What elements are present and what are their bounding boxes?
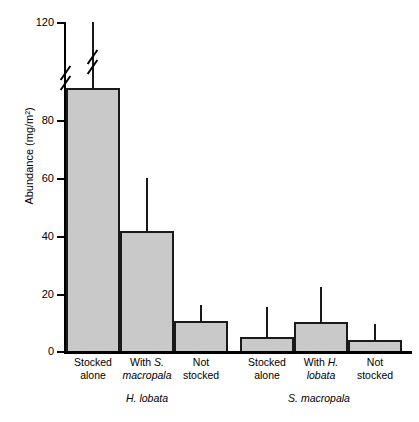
bar-3 xyxy=(174,321,228,354)
group-label-h-lobata: H. lobata xyxy=(94,392,200,404)
y-tick-120 xyxy=(57,22,65,24)
y-tick-label-40: 40 xyxy=(20,231,54,242)
error-bar-3 xyxy=(200,305,202,322)
y-tick-80 xyxy=(57,120,65,122)
error-bar-5 xyxy=(320,287,322,323)
x-label-3-line1: Not xyxy=(168,356,234,369)
bar-5 xyxy=(294,322,348,354)
x-label-5-line1-italic: H. xyxy=(328,356,339,368)
x-label-6-line1: Not xyxy=(342,356,408,369)
x-label-5-line1-text: With xyxy=(304,356,328,368)
bar-2 xyxy=(120,231,174,354)
error-bar-4 xyxy=(266,307,268,338)
y-tick-label-80: 80 xyxy=(20,115,54,126)
y-tick-label-120: 120 xyxy=(14,17,54,28)
error-bar-2 xyxy=(146,178,148,232)
x-label-6: Not stocked xyxy=(342,356,408,381)
y-tick-40 xyxy=(57,236,65,238)
y-tick-label-0: 0 xyxy=(20,346,54,357)
y-axis-label: Abundance (mg/m²) xyxy=(23,71,35,241)
y-tick-label-60: 60 xyxy=(20,173,54,184)
x-label-2-line1-italic: S. xyxy=(154,356,164,368)
bar-1 xyxy=(66,88,120,354)
x-label-3: Not stocked xyxy=(168,356,234,381)
x-axis-line xyxy=(64,351,412,354)
x-label-2-line1-text: With xyxy=(130,356,154,368)
y-tick-60 xyxy=(57,178,65,180)
group-label-s-macropala: S. macropala xyxy=(264,392,374,404)
error-bar-6 xyxy=(374,324,376,341)
y-tick-20 xyxy=(57,294,65,296)
y-tick-label-20: 20 xyxy=(20,289,54,300)
x-label-6-line2: stocked xyxy=(342,369,408,382)
bar-chart: Abundance (mg/m²) 0 20 40 60 80 120 Stoc… xyxy=(0,0,419,422)
x-label-3-line2: stocked xyxy=(168,369,234,382)
